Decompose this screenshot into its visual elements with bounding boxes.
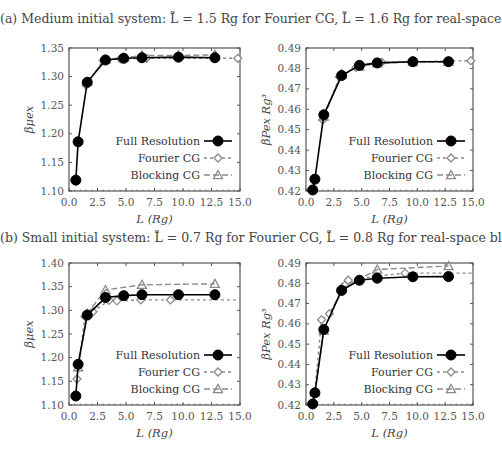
svg-text:Full Resolution: Full Resolution [115,349,200,362]
y-tick-label: 0.49 [278,257,301,269]
y-axis-label: βPex Rg³ [259,93,273,146]
x-tick-label: 10.0 [171,410,194,422]
legend-item-fourier-cg: Fourier CG [138,152,232,165]
y-tick-label: 0.47 [278,297,301,309]
x-tick-label: 15.0 [461,196,484,208]
x-axis-label: L (Rg) [370,426,407,440]
x-axis-label: L (Rg) [135,212,172,226]
y-tick-label: 0.48 [278,277,301,289]
y-tick-label: 0.45 [278,123,301,135]
y-axis-label: βPex Rg³ [259,308,273,361]
y-tick-label: 0.44 [278,144,302,156]
x-tick-label: 0.0 [298,410,315,422]
chart-panel-a-left: 0.02.55.07.510.012.515.01.101.151.201.25… [22,42,252,227]
legend-item-full-resolution: Full Resolution [115,135,232,148]
legend-item-fourier-cg: Fourier CG [371,152,465,165]
svg-text:Blocking CG: Blocking CG [364,169,433,182]
svg-text:Full Resolution: Full Resolution [348,349,433,362]
y-tick-label: 1.25 [41,328,64,340]
x-tick-label: 10.0 [171,196,194,208]
y-tick-label: 0.47 [278,82,301,94]
legend-item-blocking-cg: Blocking CG [131,383,232,396]
legend-item-fourier-cg: Fourier CG [371,366,465,379]
legend-item-blocking-cg: Blocking CG [131,169,232,182]
y-tick-label: 1.30 [41,304,64,316]
legend-item-fourier-cg: Fourier CG [138,366,232,379]
x-tick-label: 5.0 [118,196,135,208]
x-tick-label: 15.0 [461,410,484,422]
x-tick-label: 0.0 [61,410,78,422]
y-tick-label: 0.42 [278,185,301,197]
series-full-resolution [71,52,220,185]
y-tick-label: 0.45 [278,338,301,350]
svg-text:Blocking CG: Blocking CG [131,169,200,182]
x-tick-label: 15.0 [228,196,251,208]
y-tick-label: 0.46 [278,103,302,115]
legend-item-full-resolution: Full Resolution [348,349,465,362]
x-tick-label: 10.0 [406,196,429,208]
x-tick-label: 2.5 [89,196,106,208]
svg-text:Fourier CG: Fourier CG [371,152,433,165]
x-tick-label: 0.0 [61,196,78,208]
series-fourier-cg [319,57,475,124]
chart-panel-b-left: 0.02.55.07.510.012.515.01.101.151.201.25… [22,257,252,441]
x-tick-label: 12.5 [200,410,223,422]
svg-text:Fourier CG: Fourier CG [138,152,200,165]
chart-panel-b-right: 0.02.55.07.510.012.515.00.420.430.440.45… [259,257,485,441]
x-tick-label: 12.5 [433,196,456,208]
x-tick-label: 5.0 [353,410,370,422]
y-tick-label: 0.43 [278,164,301,176]
y-tick-label: 1.20 [41,351,64,363]
y-tick-label: 0.49 [278,42,301,54]
x-tick-label: 2.5 [325,410,342,422]
svg-text:Blocking CG: Blocking CG [364,383,433,396]
svg-text:Blocking CG: Blocking CG [131,383,200,396]
x-tick-label: 7.5 [381,410,398,422]
y-tick-label: 1.40 [41,257,64,269]
y-tick-label: 1.30 [41,70,64,82]
y-tick-label: 0.46 [278,317,302,329]
y-axis-label: βμex [22,320,36,349]
y-tick-label: 0.44 [278,358,302,370]
y-tick-label: 0.43 [278,378,301,390]
x-tick-label: 5.0 [353,196,370,208]
y-tick-label: 0.48 [278,62,301,74]
svg-text:Full Resolution: Full Resolution [348,135,433,148]
x-tick-label: 7.5 [146,196,163,208]
legend-item-blocking-cg: Blocking CG [364,383,465,396]
x-tick-label: 15.0 [228,410,251,422]
x-tick-label: 2.5 [325,196,342,208]
x-tick-label: 12.5 [433,410,456,422]
x-tick-label: 5.0 [118,410,135,422]
series-blocking-cg [319,57,453,120]
y-tick-label: 1.15 [41,156,64,168]
svg-text:Full Resolution: Full Resolution [115,135,200,148]
x-axis-label: L (Rg) [135,426,172,440]
x-tick-label: 7.5 [146,410,163,422]
chart-canvas: 0.02.55.07.510.012.515.01.101.151.201.25… [0,0,502,470]
svg-text:Fourier CG: Fourier CG [138,366,200,379]
y-tick-label: 0.42 [278,399,301,411]
x-tick-label: 0.0 [298,196,315,208]
y-tick-label: 1.15 [41,375,64,387]
y-tick-label: 1.10 [41,399,64,411]
y-tick-label: 1.10 [41,185,64,197]
legend-item-full-resolution: Full Resolution [115,349,232,362]
y-tick-label: 1.35 [41,42,64,54]
x-tick-label: 10.0 [406,410,429,422]
x-tick-label: 12.5 [200,196,223,208]
x-tick-label: 2.5 [89,410,106,422]
y-axis-label: βμex [22,105,36,134]
y-tick-label: 1.20 [41,127,64,139]
x-axis-label: L (Rg) [370,212,407,226]
y-tick-label: 1.25 [41,99,64,111]
legend-item-full-resolution: Full Resolution [348,135,465,148]
chart-panel-a-right: 0.02.55.07.510.012.515.00.420.430.440.45… [259,42,485,227]
y-tick-label: 1.35 [41,280,64,292]
legend-item-blocking-cg: Blocking CG [364,169,465,182]
svg-text:Fourier CG: Fourier CG [371,366,433,379]
x-tick-label: 7.5 [381,196,398,208]
